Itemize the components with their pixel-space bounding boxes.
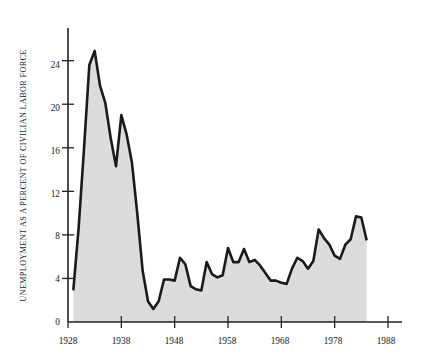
x-tick-label-1968: 1968 <box>260 336 300 346</box>
x-tick-label-1958: 1958 <box>207 336 247 346</box>
unemployment-area-chart: UNEMPLOYMENT AS A PERCENT OF CIVILIAN LA… <box>0 0 424 364</box>
y-tick-label-16: 16 <box>38 146 60 156</box>
x-tick-label-1928: 1928 <box>48 336 88 346</box>
plot-area <box>0 0 424 364</box>
series-area-fill <box>73 51 366 322</box>
x-tick-label-1938: 1938 <box>101 336 141 346</box>
y-axis-title: UNEMPLOYMENT AS A PERCENT OF CIVILIAN LA… <box>14 38 32 312</box>
y-tick-label-4: 4 <box>38 274 60 284</box>
y-tick-label-12: 12 <box>38 189 60 199</box>
x-tick-label-1978: 1978 <box>313 336 353 346</box>
y-tick-label-20: 20 <box>38 103 60 113</box>
area-fill-group <box>73 51 366 322</box>
y-axis-title-text: UNEMPLOYMENT AS A PERCENT OF CIVILIAN LA… <box>19 49 28 301</box>
y-tick-label-0: 0 <box>38 317 60 327</box>
x-tick-label-1988: 1988 <box>366 336 406 346</box>
x-tick-label-1948: 1948 <box>154 336 194 346</box>
y-tick-label-24: 24 <box>38 60 60 70</box>
y-tick-label-8: 8 <box>38 231 60 241</box>
